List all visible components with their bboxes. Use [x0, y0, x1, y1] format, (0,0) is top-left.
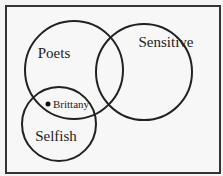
- brittany-label: Brittany: [53, 98, 90, 110]
- poets-label: Poets: [38, 45, 71, 61]
- venn-diagram: Poets Sensitive Selfish Brittany: [0, 0, 223, 176]
- sensitive-label: Sensitive: [139, 34, 194, 50]
- brittany-point: [46, 102, 51, 107]
- selfish-label: Selfish: [35, 128, 77, 144]
